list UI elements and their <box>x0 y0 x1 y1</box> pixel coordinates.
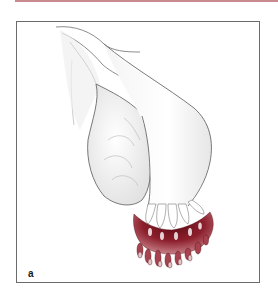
anatomical-illustration <box>0 0 278 296</box>
panel-label: a <box>28 269 34 279</box>
